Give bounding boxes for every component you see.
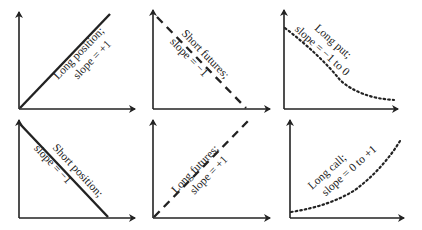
panel-label: Long position; slope = +1 [51, 22, 119, 91]
panel-label: Long put; slope = −1 to 0 [292, 12, 362, 79]
panel-long-call: Long call; slope = 0 to +1 [290, 120, 404, 218]
panel-long-futures: Long futures; slope = +1 [153, 120, 270, 218]
panel-long-position: Long position; slope = +1 [19, 12, 135, 109]
panel-label: Long call; slope = 0 to +1 [305, 132, 379, 203]
panel-short-futures: Short futures; slope = −1 [153, 10, 270, 109]
panel-label: Short position; slope = −1 [31, 132, 107, 211]
panel-long-put: Long put; slope = −1 to 0 [284, 10, 398, 109]
panel-label: Long futures; slope = +1 [169, 140, 234, 206]
panel-short-position: Short position; slope = −1 [19, 120, 135, 218]
panel-label: Short futures; slope = −1 [167, 26, 234, 94]
payoff-diagrams: Long position; slope = +1 Short futures;… [0, 0, 422, 230]
